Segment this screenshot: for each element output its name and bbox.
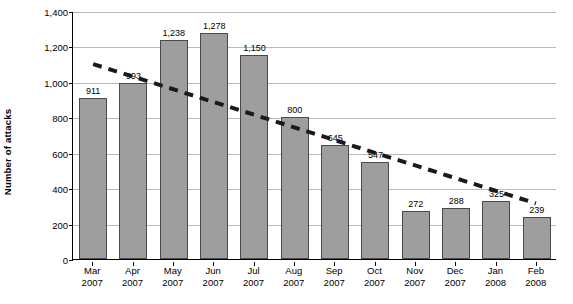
y-axis-title: Number of attacks <box>2 0 18 304</box>
bar[interactable] <box>523 217 551 259</box>
x-tick-label: Nov2007 <box>395 265 435 289</box>
plot-area: 02004006008001,0001,2001,400 9119931,238… <box>72 12 556 260</box>
x-tick-label-line: 2007 <box>233 277 273 289</box>
bar-value-label: 1,150 <box>243 43 266 53</box>
bar-value-label: 645 <box>328 133 343 143</box>
x-tick-label-line: Mar <box>72 265 112 277</box>
bars-layer: 9119931,2381,2781,1508006455472722883252… <box>73 12 556 259</box>
y-tick-label: 200 <box>52 219 68 230</box>
bar-slot: 1,238 <box>154 12 194 259</box>
x-tick-label-line: 2007 <box>112 277 152 289</box>
bar-value-label: 911 <box>86 86 100 96</box>
x-tick-label-line: 2008 <box>475 277 515 289</box>
x-tick-label: Aug2007 <box>274 265 314 289</box>
y-tick-label: 400 <box>52 184 68 195</box>
x-tick-label-line: 2007 <box>354 277 394 289</box>
bar-slot: 911 <box>73 12 113 259</box>
bar-value-label: 547 <box>368 150 383 160</box>
x-tick-label-line: May <box>153 265 193 277</box>
bar-slot: 325 <box>476 12 516 259</box>
x-tick-label: Jun2007 <box>193 265 233 289</box>
y-tick-mark <box>69 260 73 261</box>
x-tick-label-line: Nov <box>395 265 435 277</box>
y-tick-label: 600 <box>52 148 68 159</box>
x-tick-label: Sep2007 <box>314 265 354 289</box>
x-tick-label-line: 2008 <box>516 277 556 289</box>
bar-slot: 288 <box>436 12 476 259</box>
x-tick-label-line: Apr <box>112 265 152 277</box>
x-tick-label-line: Jan <box>475 265 515 277</box>
bar-slot: 547 <box>355 12 395 259</box>
bar[interactable] <box>240 55 268 259</box>
bar-value-label: 993 <box>126 71 141 81</box>
bar-value-label: 288 <box>449 196 464 206</box>
x-tick-label-line: 2007 <box>153 277 193 289</box>
bar[interactable] <box>402 211 430 259</box>
y-tick-label: 0 <box>63 255 68 266</box>
x-tick-label-line: 2007 <box>435 277 475 289</box>
x-tick-label-line: Jul <box>233 265 273 277</box>
bar[interactable] <box>79 98 107 259</box>
y-tick-label: 1,000 <box>44 77 68 88</box>
bar-value-label: 325 <box>489 189 504 199</box>
bar-slot: 993 <box>113 12 153 259</box>
x-tick-label: Jan2008 <box>475 265 515 289</box>
x-tick-label-line: 2007 <box>193 277 233 289</box>
x-tick-label-line: 2007 <box>395 277 435 289</box>
chart-container: Number of attacks 02004006008001,0001,20… <box>0 0 573 304</box>
x-tick-label: Mar2007 <box>72 265 112 289</box>
bar-slot: 800 <box>275 12 315 259</box>
x-tick-label-line: Dec <box>435 265 475 277</box>
bar[interactable] <box>119 83 147 259</box>
bar-slot: 1,278 <box>194 12 234 259</box>
x-tick-label-line: Jun <box>193 265 233 277</box>
bar[interactable] <box>482 201 510 259</box>
bar[interactable] <box>200 33 228 259</box>
x-tick-label: Dec2007 <box>435 265 475 289</box>
bar-slot: 1,150 <box>234 12 274 259</box>
bar-value-label: 1,278 <box>203 21 226 31</box>
bar-value-label: 239 <box>529 205 544 215</box>
x-tick-label: Jul2007 <box>233 265 273 289</box>
x-axis-labels: Mar2007Apr2007May2007Jun2007Jul2007Aug20… <box>72 262 556 302</box>
bar[interactable] <box>281 117 309 259</box>
x-tick-label: Feb2008 <box>516 265 556 289</box>
x-tick-label-line: 2007 <box>274 277 314 289</box>
bar[interactable] <box>160 40 188 259</box>
bar[interactable] <box>442 208 470 259</box>
y-tick-label: 1,200 <box>44 42 68 53</box>
x-tick-label: Apr2007 <box>112 265 152 289</box>
x-tick-label-line: Oct <box>354 265 394 277</box>
x-tick-label: Oct2007 <box>354 265 394 289</box>
bar-slot: 645 <box>315 12 355 259</box>
x-tick-label-line: Sep <box>314 265 354 277</box>
y-tick-label: 800 <box>52 113 68 124</box>
x-tick-label-line: 2007 <box>72 277 112 289</box>
x-tick-label-line: Feb <box>516 265 556 277</box>
bar-value-label: 272 <box>408 199 423 209</box>
bar-value-label: 800 <box>287 105 302 115</box>
x-tick-label: May2007 <box>153 265 193 289</box>
bar[interactable] <box>321 145 349 259</box>
bar[interactable] <box>361 162 389 259</box>
bar-slot: 239 <box>517 12 557 259</box>
x-tick-label-line: 2007 <box>314 277 354 289</box>
bar-value-label: 1,238 <box>163 28 186 38</box>
bar-slot: 272 <box>396 12 436 259</box>
x-tick-label-line: Aug <box>274 265 314 277</box>
y-tick-label: 1,400 <box>44 7 68 18</box>
